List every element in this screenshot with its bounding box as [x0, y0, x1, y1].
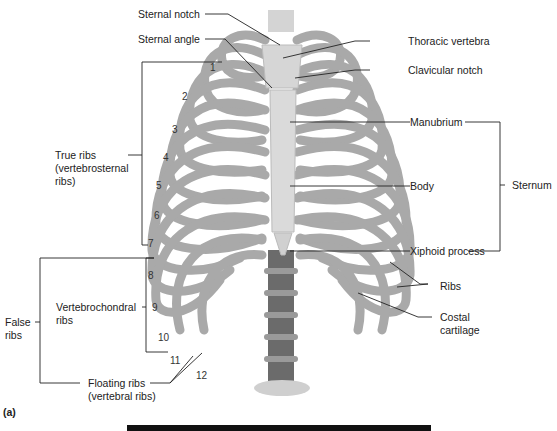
rib-number-12: 12	[196, 370, 207, 381]
label-vertebrochondral-line1: Vertebrochondral	[56, 301, 136, 313]
rib-number-10: 10	[158, 332, 169, 343]
label-manubrium: Manubrium	[410, 116, 463, 128]
rib-number-1: 1	[210, 62, 216, 73]
label-body: Body	[410, 180, 434, 192]
label-vertebrochondral-line2: ribs	[56, 314, 73, 326]
label-xiphoid-process: Xiphoid process	[410, 245, 485, 257]
label-sternum: Sternum	[512, 179, 552, 191]
panel-label: (a)	[3, 406, 16, 418]
label-true-ribs-line1: True ribs	[55, 149, 96, 161]
rib-number-8: 8	[148, 270, 154, 281]
label-floating-ribs-line2: (vertebral ribs)	[88, 390, 156, 402]
rib-number-4: 4	[163, 152, 169, 163]
label-costal-cartilage-line2: cartilage	[440, 324, 480, 336]
rib-number-5: 5	[156, 180, 162, 191]
label-floating-ribs-line1: Floating ribs	[88, 377, 145, 389]
bottom-dark-bar	[127, 425, 431, 431]
label-true-ribs-line2: (vertebrosternal	[55, 162, 129, 174]
label-thoracic-vertebra: Thoracic vertebra	[408, 35, 490, 47]
rib-number-3: 3	[172, 124, 178, 135]
rib-number-7: 7	[148, 238, 154, 249]
label-true-ribs-line3: ribs)	[55, 175, 75, 187]
rib-number-2: 2	[182, 91, 188, 102]
label-false-ribs-line1: False	[5, 316, 31, 328]
label-costal-cartilage-line1: Costal	[440, 311, 470, 323]
rib-number-9: 9	[152, 302, 158, 313]
rib-number-11: 11	[170, 355, 180, 366]
label-ribs: Ribs	[440, 280, 461, 292]
label-sternal-notch: Sternal notch	[138, 8, 200, 20]
rib-number-6: 6	[154, 210, 160, 221]
label-sternal-angle: Sternal angle	[138, 33, 200, 45]
label-clavicular-notch: Clavicular notch	[408, 64, 483, 76]
label-false-ribs-line2: ribs	[5, 329, 22, 341]
